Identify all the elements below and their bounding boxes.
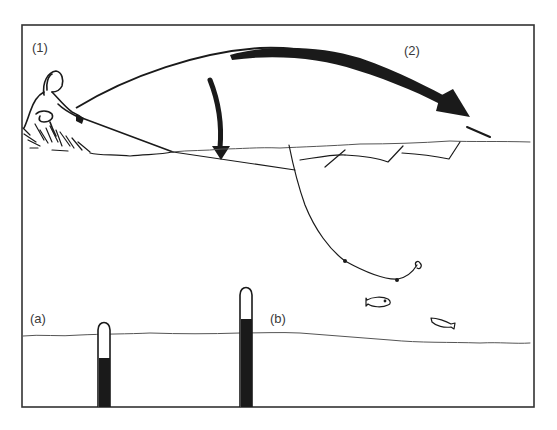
- label-stage-2: (2): [404, 44, 420, 57]
- drop-arrow: [210, 80, 230, 160]
- label-gauge-a: (a): [30, 312, 46, 325]
- sinker-2: [395, 278, 399, 282]
- landing-dash: [467, 127, 490, 137]
- fish-left-icon: [366, 297, 390, 307]
- fishing-rod: [82, 118, 173, 152]
- sinker-1: [343, 259, 347, 263]
- label-gauge-b: (b): [270, 312, 286, 325]
- fish-right-icon: [431, 318, 455, 329]
- gauge-a: [98, 323, 110, 408]
- line-to-leader: [173, 152, 295, 170]
- angler-figure: [24, 71, 84, 136]
- hook-line: [289, 145, 417, 279]
- bank-grass: [23, 124, 172, 156]
- fishing-diagram: [0, 0, 557, 430]
- cast-arrow: [76, 48, 470, 117]
- label-stage-1: (1): [32, 41, 48, 54]
- gauge-b: [240, 288, 252, 408]
